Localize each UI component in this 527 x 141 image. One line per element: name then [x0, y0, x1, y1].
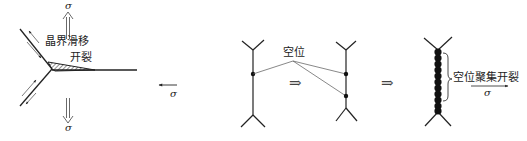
vacancy-dot: [344, 94, 348, 98]
leader-line: [253, 61, 293, 74]
slide-arrow-lower-out: [26, 93, 36, 104]
implies-arrow-1: ⇒: [289, 76, 302, 91]
vacancy-chain: [434, 48, 441, 114]
brace: [443, 53, 452, 101]
grain-boundary-1: [241, 40, 265, 127]
grain-boundary-2: [336, 41, 357, 121]
label-vacancy-cluster-crack: 空位聚集开裂: [453, 72, 519, 83]
sigma-right: σ: [484, 88, 491, 98]
label-vacancy: 空位: [283, 47, 305, 58]
stress-arrow-down: [63, 98, 73, 123]
leader-line: [293, 61, 346, 74]
grain-boundary-lower-left: [20, 69, 52, 106]
slide-arrow-lower-in: [22, 80, 36, 96]
panel-a-gb-sliding: [20, 12, 177, 123]
label-gb-sliding: 晶界滑移: [45, 36, 89, 47]
vacancy-dot: [344, 72, 348, 76]
slide-arrow-upper-in: [27, 42, 41, 58]
figure: 晶界滑移 开裂 σ σ σ 空位 ⇒ ⇒ 空位聚集开裂 σ: [0, 0, 527, 141]
sigma-left: σ: [170, 89, 177, 99]
label-crack: 开裂: [70, 52, 92, 63]
sigma-top: σ: [65, 1, 72, 11]
sigma-bottom: σ: [65, 123, 72, 133]
implies-arrow-2: ⇒: [381, 76, 394, 91]
